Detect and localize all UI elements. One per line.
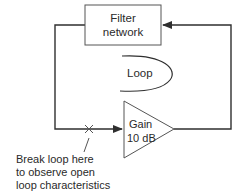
annotation-leader-line (84, 138, 89, 152)
gain-label-line1: Gain (129, 118, 152, 130)
loop-label: Loop (127, 67, 153, 79)
annotation-line3: loop characteristics (16, 179, 111, 191)
filter-label-line1: Filter (110, 12, 136, 24)
feedback-loop-diagram: Filter network Loop Gain 10 dB Break loo… (0, 0, 242, 193)
gain-label-line2: 10 dB (127, 132, 156, 144)
filter-network-block (85, 5, 161, 45)
annotation-line2: to observe open (16, 166, 95, 178)
annotation-line1: Break loop here (16, 153, 94, 165)
filter-label-line2: network (103, 26, 144, 38)
wire-right-top (163, 25, 231, 129)
